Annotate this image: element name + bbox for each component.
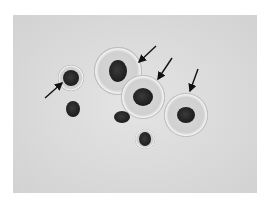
cell-nucleus <box>63 70 79 86</box>
cell <box>135 129 155 149</box>
cell <box>58 65 84 91</box>
cell <box>164 93 208 137</box>
cell-nucleus <box>177 107 195 123</box>
cell-nucleus <box>109 60 127 82</box>
cell-nucleus <box>66 101 80 117</box>
cell-nucleus <box>139 132 151 146</box>
cell <box>66 101 80 117</box>
cell <box>121 75 165 119</box>
cell-nucleus <box>133 88 153 106</box>
cell-nucleus <box>114 111 130 123</box>
cell <box>114 111 130 123</box>
micrograph-image <box>0 0 269 205</box>
